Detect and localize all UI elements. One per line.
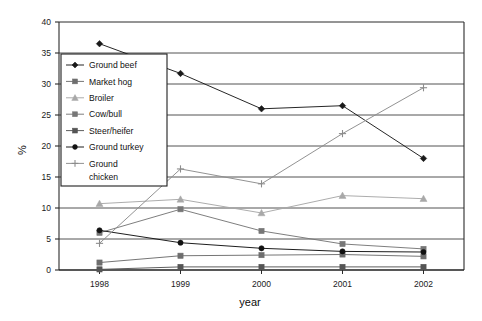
data-point-marker: [97, 260, 102, 265]
y-tick-label: 10: [42, 203, 52, 213]
legend-label[interactable]: chicken: [89, 172, 118, 182]
data-point-marker: [73, 145, 78, 150]
x-tick-label: 2000: [252, 279, 271, 289]
x-axis-ticks-group: 19981999200020012002: [90, 270, 433, 289]
y-tick-label: 35: [42, 48, 52, 58]
data-point-marker: [340, 249, 345, 254]
legend-label[interactable]: Ground turkey: [89, 142, 144, 152]
x-tick-label: 2002: [414, 279, 433, 289]
data-point-marker: [340, 241, 345, 246]
y-tick-label: 0: [46, 265, 51, 275]
chart-figure: 0510152025303540 19981999200020012002 % …: [0, 0, 482, 321]
x-axis-title: year: [239, 296, 261, 308]
y-tick-label: 25: [42, 110, 52, 120]
data-point-marker: [178, 240, 183, 245]
data-point-marker: [178, 253, 183, 258]
data-point-marker: [97, 228, 102, 233]
legend-label[interactable]: Steer/heifer: [89, 126, 134, 136]
data-point-marker: [259, 264, 264, 269]
data-point-marker: [259, 228, 264, 233]
y-tick-label: 15: [42, 172, 52, 182]
data-point-marker: [178, 207, 183, 212]
chart-legend[interactable]: Ground beefMarket hogBroilerCow/bullStee…: [61, 54, 167, 186]
legend-label[interactable]: Ground beef: [89, 60, 137, 70]
line-chart-canvas: 0510152025303540 19981999200020012002 % …: [0, 0, 482, 321]
y-tick-label: 30: [42, 79, 52, 89]
data-point-marker: [73, 128, 78, 133]
data-point-marker: [421, 264, 426, 269]
data-point-marker: [73, 79, 78, 84]
y-tick-label: 40: [42, 17, 52, 27]
x-tick-label: 1998: [90, 279, 109, 289]
data-point-marker: [259, 246, 264, 251]
legend-label[interactable]: Market hog: [89, 77, 132, 87]
y-axis-title: %: [16, 145, 28, 155]
y-tick-label: 20: [42, 141, 52, 151]
data-point-marker: [340, 264, 345, 269]
data-point-marker: [421, 249, 426, 254]
legend-label[interactable]: Cow/bull: [89, 109, 122, 119]
data-point-marker: [97, 267, 102, 272]
y-axis-ticks-group: 0510152025303540: [42, 17, 59, 275]
data-point-marker: [259, 253, 264, 258]
data-point-marker: [73, 112, 78, 117]
legend-label[interactable]: Ground: [89, 159, 118, 169]
x-tick-label: 1999: [171, 279, 190, 289]
x-tick-label: 2001: [333, 279, 352, 289]
legend-label[interactable]: Broiler: [89, 93, 114, 103]
data-point-marker: [178, 264, 183, 269]
y-tick-label: 5: [46, 234, 51, 244]
